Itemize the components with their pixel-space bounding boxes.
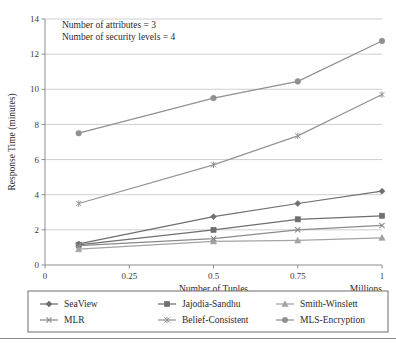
data-point-marker-square <box>379 213 384 218</box>
x-axis-ticks: 00.250.50.751 <box>43 265 385 281</box>
marker-square <box>164 301 169 306</box>
data-point-marker-circle <box>295 79 301 85</box>
x-tick-label: 0.75 <box>290 271 306 281</box>
marker-circle <box>295 79 301 85</box>
y-tick-label: 8 <box>35 120 40 130</box>
series-belief-consistent <box>76 91 385 206</box>
marker-circle <box>282 317 288 323</box>
y-tick-label: 0 <box>35 260 40 270</box>
y-tick-label: 12 <box>30 49 39 59</box>
legend-label: SeaView <box>64 299 98 309</box>
y-axis-ticks: 02468101214 <box>30 14 45 270</box>
data-point-marker-square <box>164 301 169 306</box>
y-axis-title: Response Time (minutes) <box>7 93 18 190</box>
marker-square <box>379 213 384 218</box>
annotation-line: Number of security levels = 4 <box>62 32 176 42</box>
series-plot-area <box>76 38 386 252</box>
legend-label: Belief-Consistent <box>182 315 249 325</box>
y-tick-label: 10 <box>30 84 40 94</box>
marker-square <box>295 217 300 222</box>
chart-legend: SeaViewJajodia-SandhuSmith-WinslettMLRBe… <box>28 291 388 332</box>
data-point-marker-asterisk <box>379 91 384 97</box>
marker-square <box>211 227 216 232</box>
line-chart: 02468101214 00.250.50.751 Response Time … <box>0 0 396 343</box>
series-line <box>79 41 382 133</box>
y-tick-label: 14 <box>30 14 40 24</box>
x-tick-label: 0.25 <box>121 271 137 281</box>
data-point-marker-square <box>211 227 216 232</box>
annotation-line: Number of attributes = 3 <box>62 20 156 30</box>
series-line <box>79 225 382 245</box>
axis-titles: Response Time (minutes)Number of TuplesM… <box>7 93 382 294</box>
data-point-marker-square <box>295 217 300 222</box>
marker-circle <box>379 38 385 44</box>
y-tick-label: 2 <box>35 225 40 235</box>
legend-label: Jajodia-Sandhu <box>182 299 241 309</box>
legend-label: MLR <box>64 315 85 325</box>
marker-diamond <box>211 214 217 220</box>
x-tick-label: 0 <box>43 271 48 281</box>
marker-diamond <box>379 188 385 194</box>
series-mls-encryption <box>76 38 385 136</box>
x-tick-label: 1 <box>380 271 385 281</box>
chart-annotation: Number of attributes = 3Number of securi… <box>62 20 176 42</box>
y-tick-label: 6 <box>35 155 40 165</box>
data-point-marker-circle <box>211 95 217 101</box>
data-point-marker-circle <box>76 130 82 136</box>
figure-container: 02468101214 00.250.50.751 Response Time … <box>0 0 396 343</box>
legend-border <box>28 291 388 332</box>
data-point-marker-diamond <box>211 214 217 220</box>
series-line <box>79 95 382 204</box>
marker-circle <box>76 130 82 136</box>
marker-circle <box>211 95 217 101</box>
data-point-marker-diamond <box>295 201 301 207</box>
marker-diamond <box>295 201 301 207</box>
legend-label: Smith-Winslett <box>300 299 358 309</box>
legend-label: MLS-Encryption <box>300 315 365 325</box>
data-point-marker-circle <box>282 317 288 323</box>
data-point-marker-diamond <box>379 188 385 194</box>
x-tick-label: 0.5 <box>208 271 220 281</box>
data-point-marker-circle <box>379 38 385 44</box>
y-tick-label: 4 <box>35 190 40 200</box>
